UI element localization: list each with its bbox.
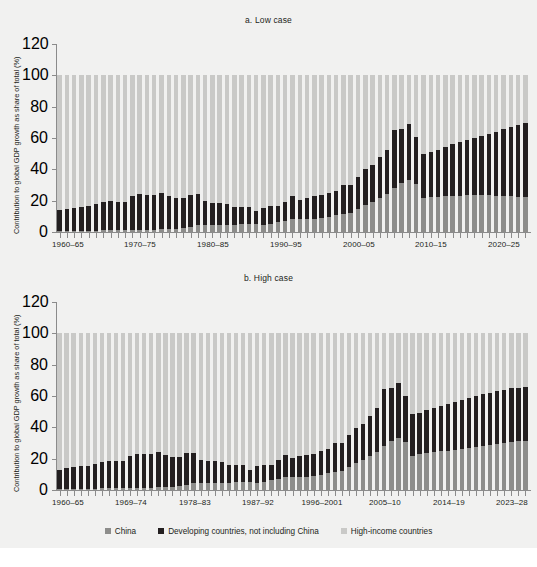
low-case-x-tick xyxy=(162,233,163,238)
bar-segment-developing xyxy=(290,458,294,477)
high-case-x-tick xyxy=(391,491,392,496)
bar-segment-high-income xyxy=(319,333,323,451)
high-case-x-tick xyxy=(469,491,470,496)
bar xyxy=(121,302,125,490)
high-case-x-tick xyxy=(95,491,96,496)
bar-segment-developing xyxy=(217,203,222,225)
bar-segment-high-income xyxy=(424,333,428,410)
low-case-y-tick-label: 40 xyxy=(22,164,48,174)
bar-segment-high-income xyxy=(227,333,231,465)
bar-segment-high-income xyxy=(502,333,506,389)
bar-segment-high-income xyxy=(159,75,164,193)
bar xyxy=(417,302,421,490)
bar-segment-china xyxy=(501,196,506,232)
low-case-x-tick xyxy=(431,233,432,238)
bar-segment-developing xyxy=(241,465,245,482)
bar xyxy=(509,302,513,490)
bar-segment-developing xyxy=(142,454,146,488)
bar xyxy=(305,44,310,232)
chart-low-case: Contribution to global GDP growth as sha… xyxy=(0,30,537,260)
bar xyxy=(502,302,506,490)
legend-swatch-high_income-icon xyxy=(341,528,347,534)
bar xyxy=(210,44,215,232)
bar-segment-high-income xyxy=(248,333,252,469)
low-case-x-tick xyxy=(438,233,439,238)
bar-segment-china xyxy=(523,441,527,490)
bar-segment-developing xyxy=(436,150,441,197)
bar-segment-developing xyxy=(312,196,317,218)
bar-segment-china xyxy=(467,448,471,490)
bar-segment-developing xyxy=(174,198,179,229)
bar-segment-developing xyxy=(290,196,295,219)
bar xyxy=(268,44,273,232)
bar xyxy=(181,44,186,232)
bar-segment-developing xyxy=(163,455,167,487)
bar-segment-high-income xyxy=(135,333,139,453)
low-case-x-tick xyxy=(212,233,213,238)
bar-segment-china xyxy=(312,219,317,232)
bar xyxy=(72,44,77,232)
bar-segment-developing xyxy=(481,394,485,445)
high-case-x-tick xyxy=(165,491,166,496)
bar-segment-developing xyxy=(385,150,390,195)
bar xyxy=(220,302,224,490)
bar xyxy=(239,44,244,232)
bar-segment-developing xyxy=(523,387,527,441)
bar xyxy=(382,302,386,490)
bar-segment-china xyxy=(509,196,514,232)
bar-segment-high-income xyxy=(467,333,471,398)
bar-segment-developing xyxy=(399,129,404,184)
high-case-x-tick xyxy=(483,491,484,496)
bar-segment-china xyxy=(396,438,400,490)
bar xyxy=(247,44,252,232)
bar-segment-china xyxy=(225,225,230,232)
bar xyxy=(283,44,288,232)
high-case-x-tick xyxy=(123,491,124,496)
bar-segment-high-income xyxy=(203,75,208,201)
bar-segment-china xyxy=(203,225,208,232)
bar-segment-high-income xyxy=(361,333,365,423)
low-case-x-tick xyxy=(242,233,243,238)
bar-segment-high-income xyxy=(191,333,195,453)
bar xyxy=(137,44,142,232)
bar-segment-developing xyxy=(71,467,75,489)
bar xyxy=(304,302,308,490)
bar-segment-high-income xyxy=(407,75,412,124)
high-case-x-tick xyxy=(413,491,414,496)
bar-segment-high-income xyxy=(247,75,252,207)
high-case-x-tick-label: 2005–10 xyxy=(369,498,401,507)
bar-segment-china xyxy=(340,471,344,490)
high-case-x-tick-label: 1960–65 xyxy=(52,498,84,507)
bar-segment-high-income xyxy=(276,333,280,460)
high-case-x-tick xyxy=(377,491,378,496)
bar-segment-china xyxy=(414,184,419,232)
bar xyxy=(481,302,485,490)
bar xyxy=(64,302,68,490)
high-case-x-tick xyxy=(511,491,512,496)
bar-segment-developing xyxy=(203,201,208,225)
bar xyxy=(170,302,174,490)
bar-segment-high-income xyxy=(130,75,135,196)
bar-segment-high-income xyxy=(495,333,499,391)
bar xyxy=(101,44,106,232)
bar-segment-china xyxy=(460,449,464,490)
bar-segment-high-income xyxy=(163,333,167,455)
bar-segment-developing xyxy=(334,191,339,215)
bar xyxy=(421,44,426,232)
low-case-x-tick xyxy=(220,233,221,238)
bar xyxy=(269,302,273,490)
bar xyxy=(340,302,344,490)
bar-segment-high-income xyxy=(487,75,492,134)
bar-segment-china xyxy=(311,476,315,490)
bar-segment-high-income xyxy=(509,75,514,127)
bar-segment-developing xyxy=(86,466,90,489)
bar-segment-china xyxy=(232,225,237,232)
bar-segment-high-income xyxy=(152,75,157,195)
bar-segment-china xyxy=(399,183,404,232)
bar-segment-developing xyxy=(509,388,513,442)
high-case-x-tick xyxy=(215,491,216,496)
high-case-x-tick xyxy=(74,491,75,496)
high-case-x-tick xyxy=(420,491,421,496)
bar-segment-high-income xyxy=(232,75,237,206)
low-case-x-tick xyxy=(329,233,330,238)
